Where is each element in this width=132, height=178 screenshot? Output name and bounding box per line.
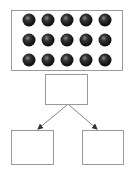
right-box: [83, 131, 124, 165]
diagram-canvas: [0, 0, 132, 178]
ball: [61, 54, 74, 67]
ball: [61, 34, 74, 47]
ball: [23, 54, 36, 67]
ball-array-box: [12, 11, 123, 71]
ball: [80, 34, 93, 47]
ball: [99, 34, 112, 47]
ball: [42, 54, 55, 67]
left-box: [12, 131, 54, 165]
ball: [99, 54, 112, 67]
ball: [80, 14, 93, 27]
ball: [23, 34, 36, 47]
ball: [42, 34, 55, 47]
ball: [42, 14, 55, 27]
ball: [99, 14, 112, 27]
middle-box: [46, 75, 88, 105]
ball: [61, 14, 74, 27]
arrow-right: [69, 105, 97, 129]
ball: [23, 14, 36, 27]
ball: [80, 54, 93, 67]
arrow-left: [38, 105, 67, 129]
